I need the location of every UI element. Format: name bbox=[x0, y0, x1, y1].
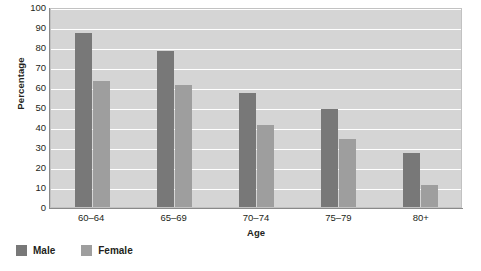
bar-female[interactable] bbox=[93, 81, 110, 207]
x-axis-tick-label: 60–64 bbox=[50, 212, 132, 226]
legend-swatch-icon bbox=[81, 245, 92, 256]
bar-group bbox=[133, 9, 215, 207]
x-axis-line bbox=[49, 208, 463, 209]
x-axis-tick-label: 65–69 bbox=[132, 212, 214, 226]
x-axis-title: Age bbox=[50, 227, 462, 238]
legend-item-female[interactable]: Female bbox=[81, 245, 132, 256]
y-axis-tick-label: 30 bbox=[20, 143, 46, 153]
y-axis-tick-label: 60 bbox=[20, 83, 46, 93]
bar-group bbox=[51, 9, 133, 207]
bar-male[interactable] bbox=[75, 33, 92, 207]
bar-group bbox=[297, 9, 379, 207]
y-axis-tick-label: 50 bbox=[20, 103, 46, 113]
bar-female[interactable] bbox=[257, 125, 274, 207]
plot-area bbox=[50, 8, 462, 208]
legend-label: Female bbox=[98, 245, 132, 256]
bar-groups bbox=[51, 9, 461, 207]
y-axis-tick-labels: 0102030405060708090100 bbox=[20, 0, 46, 208]
bar-male[interactable] bbox=[321, 109, 338, 207]
y-axis-tick-label: 90 bbox=[20, 23, 46, 33]
bar-female[interactable] bbox=[175, 85, 192, 207]
y-axis-line bbox=[49, 8, 50, 209]
bar-group bbox=[379, 9, 461, 207]
legend: MaleFemale bbox=[16, 245, 159, 256]
bar-female[interactable] bbox=[421, 185, 438, 207]
y-axis-tick-label: 20 bbox=[20, 163, 46, 173]
bar-chart: Percentage 0102030405060708090100 60–646… bbox=[0, 0, 481, 271]
y-axis-tick-label: 40 bbox=[20, 123, 46, 133]
x-axis-tick-label: 75–79 bbox=[297, 212, 379, 226]
x-axis-tick-labels: 60–6465–6970–7475–7980+ bbox=[50, 212, 462, 226]
y-axis-tick-label: 10 bbox=[20, 183, 46, 193]
x-axis-tick-label: 70–74 bbox=[215, 212, 297, 226]
x-axis-tick-label: 80+ bbox=[380, 212, 462, 226]
bar-female[interactable] bbox=[339, 139, 356, 207]
y-axis-tick-label: 0 bbox=[20, 203, 46, 213]
bar-male[interactable] bbox=[157, 51, 174, 207]
bar-male[interactable] bbox=[403, 153, 420, 207]
legend-swatch-icon bbox=[16, 245, 27, 256]
y-axis-tick-label: 80 bbox=[20, 43, 46, 53]
y-axis-tick-label: 70 bbox=[20, 63, 46, 73]
legend-item-male[interactable]: Male bbox=[16, 245, 55, 256]
bar-group bbox=[215, 9, 297, 207]
bar-male[interactable] bbox=[239, 93, 256, 207]
y-axis-tick-label: 100 bbox=[20, 3, 46, 13]
legend-label: Male bbox=[33, 245, 55, 256]
